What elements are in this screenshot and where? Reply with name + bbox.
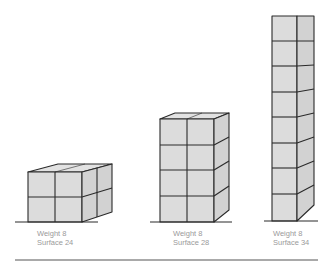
tall-column-surface: Surface 34 <box>273 238 309 247</box>
shape-tall-column <box>264 16 318 221</box>
medium-block-weight: Weight 8 <box>173 229 209 238</box>
shape-medium-block <box>150 113 232 222</box>
wide-block-label: Weight 8 Surface 24 <box>37 229 73 247</box>
tall-column-front <box>272 16 297 221</box>
medium-block-surface: Surface 28 <box>173 238 209 247</box>
tall-column-weight: Weight 8 <box>273 229 309 238</box>
tall-column-side <box>297 16 314 221</box>
shape-wide-block <box>15 164 112 222</box>
tall-column-label: Weight 8 Surface 34 <box>273 229 309 247</box>
medium-block-label: Weight 8 Surface 28 <box>173 229 209 247</box>
cube-stacks-diagram <box>0 0 333 263</box>
wide-block-surface: Surface 24 <box>37 238 73 247</box>
medium-block-side <box>214 113 229 222</box>
wide-block-weight: Weight 8 <box>37 229 73 238</box>
